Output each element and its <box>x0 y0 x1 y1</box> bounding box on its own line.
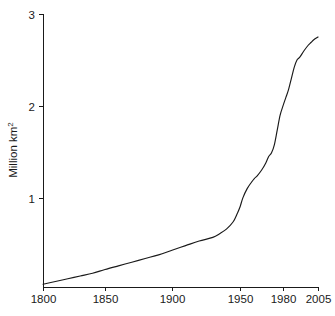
x-axis-ticks: 180018501900195019802005 <box>31 287 332 305</box>
y-tick-label: 3 <box>29 9 35 21</box>
y-axis-title-superscript: 2 <box>6 122 15 127</box>
x-tick-label: 1980 <box>271 293 297 305</box>
x-tick-label: 2005 <box>306 293 332 305</box>
x-tick-label: 1900 <box>160 293 186 305</box>
line-chart: 123 180018501900195019802005 Million km2 <box>0 0 335 316</box>
y-axis-title-text: Million km2 <box>6 122 19 178</box>
data-line-area <box>43 37 318 284</box>
chart-axes <box>43 14 318 288</box>
x-tick-label: 1950 <box>228 293 254 305</box>
y-axis-ticks: 123 <box>29 9 43 205</box>
x-tick-label: 1850 <box>93 293 119 305</box>
y-axis-title: Million km2 <box>6 122 19 178</box>
x-tick-label: 1800 <box>31 293 57 305</box>
chart-figure: 123 180018501900195019802005 Million km2 <box>0 0 335 316</box>
y-axis-title-main: Million km <box>7 127 19 178</box>
y-tick-label: 2 <box>29 101 35 113</box>
y-tick-label: 1 <box>29 193 35 205</box>
data-series-group <box>43 37 318 284</box>
